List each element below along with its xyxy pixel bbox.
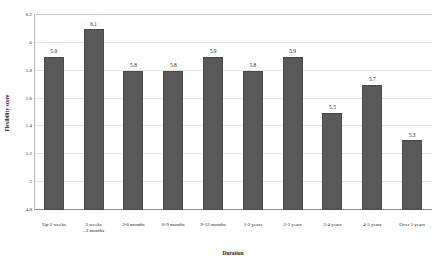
bar-value-label: 5.8 (130, 63, 137, 68)
bar[interactable] (44, 57, 64, 210)
bar[interactable] (283, 57, 303, 210)
bar-slot: 5.9 (34, 14, 74, 210)
x-axis-tick-label: 9-12 months (193, 212, 233, 228)
y-axis-tick-label: 4.8 (26, 207, 32, 212)
bar-slot: 5.9 (193, 14, 233, 210)
x-axis-tick-label: 2 weeks –3 months (74, 212, 114, 235)
bar-value-label: 5.5 (329, 105, 336, 110)
x-axis-tick-label: Over 5 years (392, 212, 432, 228)
x-axis-tick-label: Up-2 weeks (34, 212, 74, 228)
y-axis-tick-label: 5.2 (26, 151, 32, 156)
bar-value-label: 6.1 (90, 22, 97, 27)
bar-slot: 5.5 (313, 14, 353, 210)
bar[interactable] (84, 29, 104, 210)
bar-chart: Flexibility score 6.265.85.65.45.254.8 5… (0, 0, 442, 266)
x-axis-title: Duration (34, 250, 432, 256)
bar-value-label: 5.3 (409, 133, 416, 138)
y-axis-tick-label: 5.8 (26, 67, 32, 72)
bar-value-label: 5.7 (369, 77, 376, 82)
x-axis-tick-labels: Up-2 weeks2 weeks –3 months3-6 months6-9… (34, 212, 432, 242)
bar-value-label: 5.9 (289, 49, 296, 54)
y-axis-tick-label: 6 (30, 39, 33, 44)
x-axis-tick-label: 3-6 months (114, 212, 154, 228)
y-axis-title-label: Flexibility score (4, 95, 10, 132)
y-axis-tick-label: 6.2 (26, 12, 32, 17)
bar-slot: 6.1 (74, 14, 114, 210)
bar-value-label: 5.9 (51, 49, 58, 54)
x-axis-tick-label: 2-3 years (273, 212, 313, 228)
bar-value-label: 5.8 (250, 63, 257, 68)
y-axis-title: Flexibility score (0, 0, 14, 226)
x-axis-tick-label: 3-4 years (313, 212, 353, 228)
bar-slot: 5.3 (392, 14, 432, 210)
y-axis-tick-label: 5.4 (26, 123, 32, 128)
bar[interactable] (243, 71, 263, 210)
x-axis-tick-label: 6-9 months (153, 212, 193, 228)
bar[interactable] (123, 71, 143, 210)
x-axis-tick-label: 1-2 years (233, 212, 273, 228)
bar[interactable] (163, 71, 183, 210)
bar-slot: 5.8 (233, 14, 273, 210)
x-axis-tick-label: 4-5 years (352, 212, 392, 228)
bars-layer: 5.96.15.85.85.95.85.95.55.75.3 (34, 14, 432, 210)
bar[interactable] (362, 85, 382, 210)
bar-slot: 5.9 (273, 14, 313, 210)
bar[interactable] (402, 140, 422, 210)
y-axis-tick-label: 5 (30, 179, 33, 184)
bar-value-label: 5.8 (170, 63, 177, 68)
bar-value-label: 5.9 (210, 49, 217, 54)
bar[interactable] (203, 57, 223, 210)
bar-slot: 5.8 (114, 14, 154, 210)
bar-slot: 5.8 (153, 14, 193, 210)
bar-slot: 5.7 (352, 14, 392, 210)
bar[interactable] (322, 113, 342, 211)
y-axis-tick-label: 5.6 (26, 95, 32, 100)
